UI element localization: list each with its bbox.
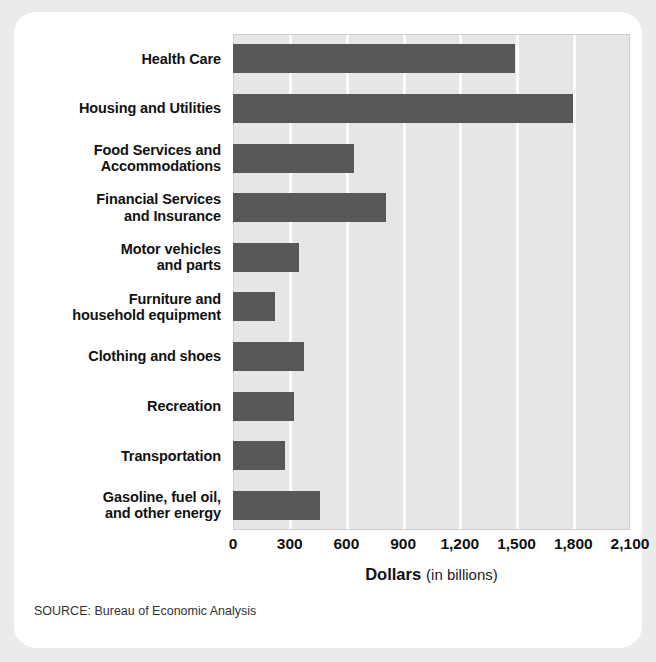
- category-label-line: Transportation: [14, 448, 221, 464]
- category-label-line: Accommodations: [14, 158, 221, 174]
- category-label-line: Recreation: [14, 398, 221, 414]
- bar: [233, 193, 386, 222]
- category-label-line: Health Care: [14, 51, 221, 67]
- x-tick-label: 1,800: [554, 535, 593, 553]
- x-axis-tick-labels: 03006009001,2001,5001,8002,100: [233, 535, 630, 559]
- bar-chart: Health CareHousing and UtilitiesFood Ser…: [14, 12, 642, 648]
- x-tick-label: 1,500: [497, 535, 536, 553]
- category-label: Transportation: [14, 448, 221, 464]
- category-label: Gasoline, fuel oil,and other energy: [14, 489, 221, 521]
- bar: [233, 144, 354, 173]
- figure-card: Health CareHousing and UtilitiesFood Ser…: [14, 12, 642, 648]
- category-label-line: Food Services and: [14, 142, 221, 158]
- source-note: SOURCE: Bureau of Economic Analysis: [34, 604, 256, 618]
- bar: [233, 44, 515, 73]
- x-tick-label: 1,200: [440, 535, 479, 553]
- category-label-line: Financial Services: [14, 191, 221, 207]
- category-label: Clothing and shoes: [14, 348, 221, 364]
- x-axis-title-main: Dollars: [365, 565, 421, 583]
- x-tick-label: 300: [277, 535, 303, 553]
- bar: [233, 491, 320, 520]
- bar: [233, 243, 299, 272]
- category-label: Financial Servicesand Insurance: [14, 191, 221, 223]
- category-label-line: Gasoline, fuel oil,: [14, 489, 221, 505]
- category-label: Recreation: [14, 398, 221, 414]
- x-tick-label: 0: [229, 535, 238, 553]
- category-label: Motor vehiclesand parts: [14, 241, 221, 273]
- bar: [233, 342, 304, 371]
- x-tick-label: 900: [390, 535, 416, 553]
- x-axis-title-sub: (in billions): [426, 566, 498, 583]
- x-tick-label: 2,100: [611, 535, 650, 553]
- x-tick-label: 600: [333, 535, 359, 553]
- category-label: Food Services andAccommodations: [14, 142, 221, 174]
- category-label-line: Furniture and: [14, 291, 221, 307]
- category-label-line: and other energy: [14, 505, 221, 521]
- category-labels: Health CareHousing and UtilitiesFood Ser…: [14, 34, 229, 530]
- bar: [233, 94, 573, 123]
- category-label-line: Clothing and shoes: [14, 348, 221, 364]
- category-label-line: Motor vehicles: [14, 241, 221, 257]
- category-label: Housing and Utilities: [14, 100, 221, 116]
- bar: [233, 441, 285, 470]
- category-label-line: Housing and Utilities: [14, 100, 221, 116]
- category-label: Health Care: [14, 51, 221, 67]
- bar: [233, 392, 294, 421]
- bar: [233, 292, 275, 321]
- bars-layer: [233, 34, 630, 530]
- category-label-line: and Insurance: [14, 208, 221, 224]
- x-axis-title: Dollars(in billions): [233, 565, 630, 584]
- category-label-line: household equipment: [14, 307, 221, 323]
- category-label: Furniture andhousehold equipment: [14, 291, 221, 323]
- category-label-line: and parts: [14, 257, 221, 273]
